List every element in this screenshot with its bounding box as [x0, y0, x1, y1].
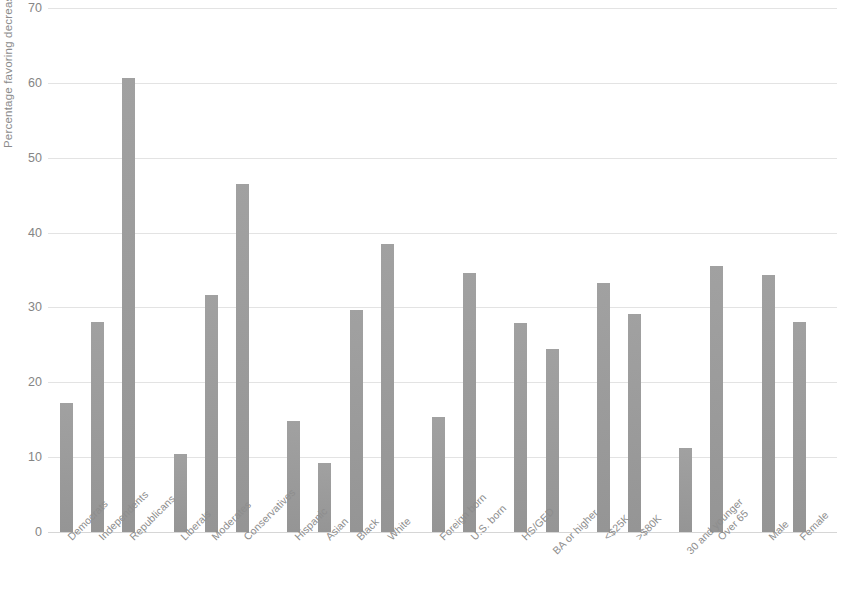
bar[interactable]: [710, 266, 723, 532]
y-tick-label-10: 10: [12, 451, 42, 464]
bar[interactable]: [514, 323, 527, 532]
y-tick-label-0: 0: [12, 526, 42, 539]
bar[interactable]: [463, 273, 476, 532]
y-tick-label-30: 30: [12, 301, 42, 314]
bar[interactable]: [350, 310, 363, 532]
y-axis-title: Percentage favoring decreased immigratio…: [2, 0, 18, 148]
bar-chart: Percentage favoring decreased immigratio…: [0, 0, 845, 607]
plot-area: 010203040506070: [48, 8, 837, 532]
bar[interactable]: [205, 295, 218, 532]
bar[interactable]: [793, 322, 806, 532]
bar[interactable]: [597, 283, 610, 532]
y-tick-label-60: 60: [12, 77, 42, 90]
gridline-60: [48, 83, 837, 84]
y-tick-label-40: 40: [12, 227, 42, 240]
bar[interactable]: [174, 454, 187, 532]
gridline-70: [48, 8, 837, 9]
y-tick-label-70: 70: [12, 2, 42, 15]
x-axis-labels: DemocratsIndependentsRepublicansLiberals…: [48, 534, 845, 607]
bar[interactable]: [679, 448, 692, 532]
y-tick-label-20: 20: [12, 376, 42, 389]
bar[interactable]: [287, 421, 300, 532]
bar[interactable]: [432, 417, 445, 532]
gridline-40: [48, 233, 837, 234]
bar[interactable]: [236, 184, 249, 532]
bar[interactable]: [122, 78, 135, 532]
bar[interactable]: [762, 275, 775, 533]
gridline-50: [48, 158, 837, 159]
bar[interactable]: [60, 403, 73, 533]
bar[interactable]: [628, 314, 641, 532]
bar[interactable]: [381, 244, 394, 532]
y-tick-label-50: 50: [12, 152, 42, 165]
